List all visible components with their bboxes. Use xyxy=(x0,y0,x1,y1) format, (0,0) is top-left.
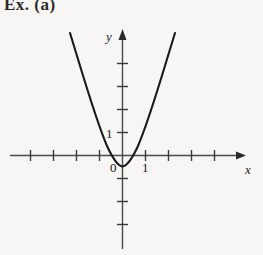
origin-label: 0 xyxy=(110,160,117,175)
graph-figure: Ex. (a) xyxy=(0,0,263,255)
y-axis-label: y xyxy=(104,29,112,44)
y-axis-tick-label-one: 1 xyxy=(106,126,113,141)
x-axis-arrowhead xyxy=(236,152,246,160)
x-axis-tick-label-one: 1 xyxy=(142,160,149,175)
x-axis-label: x xyxy=(244,162,251,177)
coordinate-plot: y x 1 0 1 xyxy=(0,0,263,255)
y-axis-arrowhead xyxy=(119,29,127,40)
